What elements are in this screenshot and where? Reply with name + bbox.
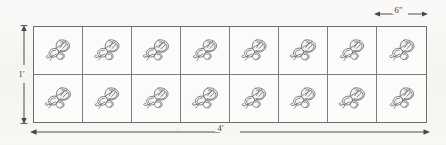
tile-cell [34, 75, 83, 123]
leaf-stroke [60, 54, 64, 59]
leaf-stroke [46, 55, 48, 57]
leaf-stroke [157, 102, 161, 106]
leaf-stroke [143, 55, 145, 57]
leaf-stroke [242, 55, 244, 57]
tile-cell [181, 75, 230, 123]
tile-cell [83, 75, 132, 123]
leaf-stroke [354, 54, 358, 59]
tile-cell [132, 75, 181, 123]
leaf-stroke [157, 54, 161, 59]
bottom-dimension-line [30, 127, 430, 137]
tile-cell [279, 75, 328, 123]
leaf-stroke [242, 103, 244, 105]
tile-cell [230, 75, 279, 123]
leaf-stroke [304, 54, 308, 59]
leaf-stroke [45, 103, 47, 105]
leaf-stroke [108, 54, 112, 58]
leaf-sprig-icon [387, 37, 417, 64]
leaf-stroke [403, 102, 407, 107]
leaf-sprig-icon [140, 36, 172, 65]
tile-cell [279, 27, 328, 75]
tile-cell [377, 75, 426, 123]
leaf-stroke [207, 54, 211, 59]
tile-cell [328, 75, 377, 123]
leaf-sprig-icon [190, 36, 221, 64]
tile-cell [34, 27, 83, 75]
tile-cell [181, 27, 230, 75]
leaf-stroke [291, 103, 293, 105]
tile-grid [33, 26, 427, 123]
leaf-stroke [206, 102, 210, 107]
leaf-stroke [109, 102, 113, 107]
leaf-sprig-icon [288, 85, 318, 112]
leaf-stroke [340, 55, 342, 57]
leaf-stroke [192, 103, 194, 105]
leaf-sprig-icon [42, 84, 74, 113]
leaf-sprig-icon [386, 84, 417, 112]
tile-cell [230, 27, 279, 75]
leaf-stroke [59, 102, 63, 107]
leaf-sprig-icon [239, 37, 269, 64]
leaf-sprig-icon [141, 85, 171, 112]
leaf-stroke [390, 103, 392, 105]
leaf-sprig-icon [239, 84, 270, 112]
leaf-sprig-icon [337, 36, 368, 64]
tile-cell [328, 27, 377, 75]
leaf-sprig-icon [189, 84, 221, 113]
leaf-sprig-icon [92, 37, 122, 64]
tile-cell [377, 27, 426, 75]
leaf-stroke [389, 55, 391, 57]
leaf-sprig-icon [336, 84, 368, 113]
leaf-stroke [339, 103, 341, 105]
leaf-stroke [95, 103, 97, 105]
rectangle-width-label: 4' [215, 124, 226, 133]
leaf-stroke [403, 54, 407, 58]
tile-cell [83, 27, 132, 75]
leaf-stroke [144, 103, 146, 105]
leaf-stroke [255, 54, 259, 58]
leaf-sprig-icon [43, 36, 74, 64]
leaf-stroke [304, 102, 308, 106]
leaf-stroke [353, 102, 357, 107]
tile-cell [132, 27, 181, 75]
tile-width-label: 6" [392, 6, 405, 15]
leaf-stroke [256, 102, 260, 107]
leaf-stroke [193, 55, 195, 57]
leaf-sprig-icon [287, 36, 319, 65]
diagram-canvas: 6" 1' 4' [0, 0, 446, 145]
rectangle-height-label: 1' [16, 70, 27, 79]
leaf-stroke [290, 55, 292, 57]
leaf-stroke [95, 55, 97, 57]
leaf-sprig-icon [92, 84, 123, 112]
